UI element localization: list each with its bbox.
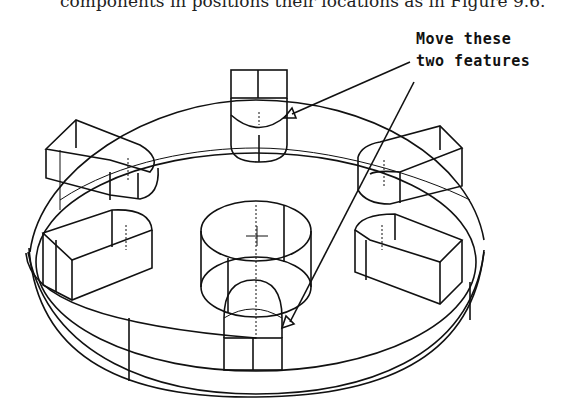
feature-upper-left [46, 120, 158, 210]
feature-lower-left [43, 210, 152, 300]
feature-bottom-slot [224, 280, 282, 370]
leader-arrows [282, 62, 414, 328]
central-boss [201, 201, 311, 340]
wireframe-drawing [0, 0, 574, 406]
base-plate [26, 153, 484, 397]
arrow-head-top-icon [284, 108, 296, 118]
feature-lower-right [355, 214, 462, 304]
